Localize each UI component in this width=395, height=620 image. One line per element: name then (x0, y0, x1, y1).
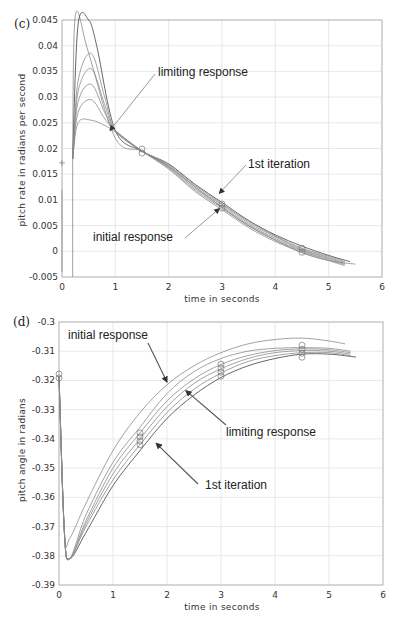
y-tick-label: 0.025 (32, 118, 58, 128)
y-tick-label: -0.3 (37, 317, 55, 327)
x-axis-label: time in seconds (184, 294, 260, 304)
y-tick-label: -0.38 (32, 551, 56, 561)
y-tick-label: -0.35 (32, 463, 55, 473)
y-tick-label: 0.045 (32, 15, 58, 25)
x-tick-label: 0 (59, 282, 65, 292)
x-tick-label: 4 (272, 590, 278, 600)
y-tick-label: -0.33 (32, 405, 55, 415)
x-tick-label: 3 (219, 282, 225, 292)
y-tick-label: 0.03 (38, 92, 58, 102)
pitch-angle-chart: (d) 0123456-0.3-0.31-0.32-0.33-0.34-0.35… (13, 315, 386, 612)
y-axis-label: pitch rate in radians per second (17, 73, 27, 226)
x-tick-label: 1 (110, 590, 116, 600)
y-tick-label: -0.37 (32, 522, 55, 532)
tick-labels: 0123456-0.00500.0050.010.0150.020.0250.0… (29, 15, 385, 292)
x-tick-label: 5 (326, 590, 332, 600)
panel-label: (c) (14, 17, 30, 31)
x-tick-label: 3 (218, 590, 224, 600)
y-tick-label: 0.02 (38, 144, 58, 154)
annotation-1st-iteration: 1st iteration (205, 478, 267, 492)
y-tick-label: -0.39 (32, 580, 56, 590)
figure: (c) 0123456-0.00500.0050.010.0150.020.02… (0, 0, 395, 620)
series-line-initial-response (59, 338, 345, 548)
y-tick-label: -0.005 (29, 272, 58, 282)
annotation-arrow (185, 209, 219, 238)
x-tick-label: 4 (272, 282, 278, 292)
y-axis-label: pitch angle in radians (17, 398, 27, 502)
x-tick-label: 2 (166, 282, 172, 292)
x-tick-label: 5 (326, 282, 332, 292)
annotation-1st-iteration: 1st iteration (248, 157, 310, 171)
series-line-limiting-response (59, 348, 351, 560)
annotation-initial-response: initial response (93, 230, 173, 244)
y-tick-label: 0.035 (32, 66, 58, 76)
y-tick-label: -0.34 (32, 434, 56, 444)
annotation-arrow (219, 165, 246, 193)
y-tick-label: 0 (52, 246, 58, 256)
y-tick-label: 0.01 (38, 195, 58, 205)
x-tick-label: 6 (380, 590, 386, 600)
series-line-iteration-2 (59, 352, 351, 559)
y-tick-label: -0.36 (32, 492, 56, 502)
annotation-limiting-response: limiting response (158, 65, 248, 79)
circle-marker (299, 354, 305, 360)
x-tick-label: 2 (164, 590, 170, 600)
tick-labels: 0123456-0.3-0.31-0.32-0.33-0.34-0.35-0.3… (32, 317, 386, 600)
x-tick-label: 0 (56, 590, 62, 600)
annotation-arrow (186, 391, 226, 425)
y-tick-label: 0.04 (38, 41, 58, 51)
panel-label: (d) (13, 315, 30, 329)
annotations: limiting response 1st iteration initial … (93, 65, 310, 244)
y-tick-label: 0.015 (32, 169, 58, 179)
series-line-1st-iteration (59, 354, 356, 559)
annotation-arrow (110, 74, 155, 131)
y-tick-label: -0.32 (32, 375, 55, 385)
y-tick-label: -0.31 (32, 346, 55, 356)
annotation-arrow (156, 443, 198, 484)
annotation-limiting-response: limiting response (226, 425, 316, 439)
x-tick-label: 1 (112, 282, 118, 292)
annotation-arrow (148, 343, 167, 382)
x-tick-label: 6 (379, 282, 385, 292)
annotation-initial-response: initial response (68, 328, 148, 342)
x-axis-label: time in seconds (184, 602, 260, 612)
pitch-rate-chart: (c) 0123456-0.00500.0050.010.0150.020.02… (14, 11, 385, 304)
y-tick-label: 0.005 (32, 221, 58, 231)
